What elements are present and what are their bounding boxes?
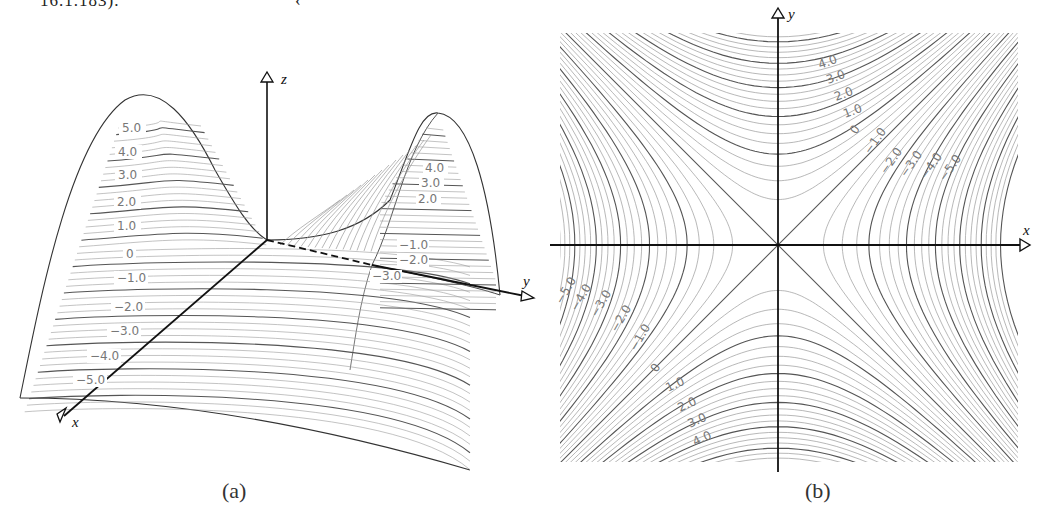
saddle-surface-3d: zxy5.04.03.02.01.00−1.0−2.0−3.0−4.0−5.04… xyxy=(0,0,560,517)
figure-panel-b: xy4.03.02.01.00−1.0−2.0−3.0−4.0−5.0−5.0−… xyxy=(540,0,1040,517)
x-axis-label: x xyxy=(1022,222,1030,238)
figure-panel-a: zxy5.04.03.02.01.00−1.0−2.0−3.0−4.0−5.04… xyxy=(0,0,560,517)
contour-label: 2.0 xyxy=(117,195,136,209)
y-axis-label: y xyxy=(786,6,795,22)
contour-label: −5.0 xyxy=(76,373,105,387)
x-axis xyxy=(64,240,267,416)
contour-label: −2.0 xyxy=(399,253,428,267)
y-axis-hidden xyxy=(267,240,372,265)
contour-label: 3.0 xyxy=(118,168,137,182)
contour-label: −1.0 xyxy=(861,125,889,157)
contour-label: 5.0 xyxy=(122,121,141,135)
contour-label: 0 xyxy=(126,247,134,261)
contour-label: −1.0 xyxy=(626,321,653,353)
contour-label: −1.0 xyxy=(399,238,428,252)
z-axis-label: z xyxy=(280,71,287,87)
contour-label: 3.0 xyxy=(685,410,708,431)
caption-b: (b) xyxy=(805,478,831,504)
contour-label: −1.0 xyxy=(117,271,146,285)
contour-label: 1.0 xyxy=(841,101,864,121)
z-axis-arrow-icon xyxy=(261,72,273,82)
contour-label: −4.0 xyxy=(90,349,119,363)
contour-label: 3.0 xyxy=(421,176,440,190)
x-axis-label: x xyxy=(71,414,79,430)
contour-label: −3.0 xyxy=(372,269,401,283)
surface-lines xyxy=(20,95,500,470)
contour-label: 3.0 xyxy=(824,67,847,87)
contour-label: 2.0 xyxy=(418,192,437,206)
y-axis-label: y xyxy=(521,273,530,289)
contour-label: 0 xyxy=(847,122,863,136)
contour-label: 4.0 xyxy=(690,428,713,449)
contour-label: 1.0 xyxy=(117,219,136,233)
y-axis-arrow-icon xyxy=(772,8,784,18)
contour-label: 4.0 xyxy=(118,145,137,159)
contour-label: 4.0 xyxy=(425,161,444,175)
contour-label: 2.0 xyxy=(832,84,855,104)
x-axis-arrow-icon xyxy=(1020,239,1030,251)
contour-label: −3.0 xyxy=(110,324,139,338)
caption-a: (a) xyxy=(222,478,246,504)
contour-label: 2.0 xyxy=(675,394,698,415)
saddle-contour-map: xy4.03.02.01.00−1.0−2.0−3.0−4.0−5.0−5.0−… xyxy=(540,0,1040,517)
y-axis-arrow-icon xyxy=(521,291,534,301)
contour-label: −2.0 xyxy=(114,300,143,314)
